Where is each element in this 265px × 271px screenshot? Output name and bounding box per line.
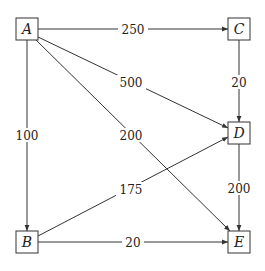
edge-label-a-b: 100 xyxy=(16,129,39,143)
node-label-e: E xyxy=(233,234,244,250)
edge-labels: 250 500 200 100 20 200 175 20 xyxy=(12,22,254,250)
edge-label-a-d: 500 xyxy=(120,76,143,90)
node-label-a: A xyxy=(20,21,32,37)
node-b: B xyxy=(16,231,38,253)
edge-label-a-c: 250 xyxy=(122,23,145,37)
node-label-c: C xyxy=(234,21,245,37)
graph-diagram: 250 500 200 100 20 200 175 20 A C D xyxy=(0,0,265,271)
edge-label-d-e: 200 xyxy=(228,182,251,196)
node-a: A xyxy=(16,18,38,40)
node-e: E xyxy=(228,231,250,253)
node-d: D xyxy=(228,122,250,144)
edge-label-a-e: 200 xyxy=(120,129,143,143)
node-label-b: B xyxy=(21,234,32,250)
edge-label-c-d: 20 xyxy=(231,76,246,90)
edge-label-b-d: 175 xyxy=(120,183,143,197)
node-label-d: D xyxy=(232,125,244,141)
edge-label-b-e: 20 xyxy=(125,236,140,250)
node-c: C xyxy=(228,18,250,40)
